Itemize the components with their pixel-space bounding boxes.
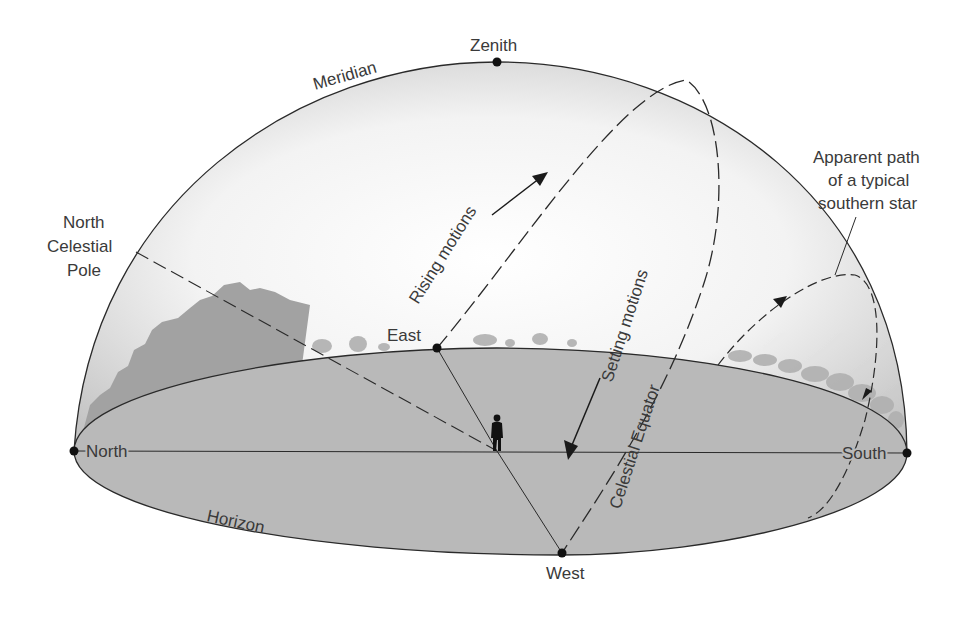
zenith-point xyxy=(493,58,502,67)
north-point xyxy=(70,447,79,456)
southern-star-label-line2: of a typical xyxy=(828,171,909,190)
southern-star-label-line3: southern star xyxy=(818,194,918,213)
west-point xyxy=(558,549,567,558)
ncp-label-line1: North xyxy=(63,213,105,232)
east-label: East xyxy=(387,326,421,345)
southern-star-label-line1: Apparent path xyxy=(813,148,920,167)
south-label: South xyxy=(842,444,886,463)
south-point xyxy=(903,449,912,458)
celestial-sphere-diagram: Zenith Meridian North Celestial Pole Ris… xyxy=(0,0,972,622)
west-label: West xyxy=(546,564,585,583)
north-label: North xyxy=(86,442,128,461)
east-point xyxy=(433,344,442,353)
zenith-label: Zenith xyxy=(470,36,517,55)
ncp-label-line3: Pole xyxy=(67,261,101,280)
ncp-label-line2: Celestial xyxy=(47,237,112,256)
